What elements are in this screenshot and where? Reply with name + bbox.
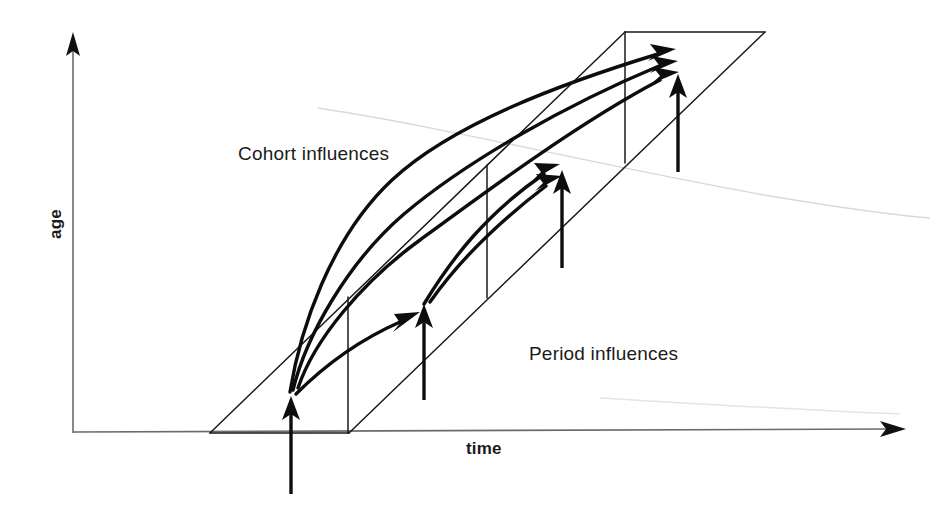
cohort-influences-label: Cohort influences [238,143,389,165]
ghost-artifacts [318,108,930,414]
axis-group [66,32,906,437]
y-axis-label: age [46,196,66,252]
x-axis-line [73,429,888,432]
cohort-curve-upper [290,54,658,392]
plane-right-edge [349,32,765,433]
period-influences-label: Period influences [529,343,678,365]
cohort-curve-lower-arrowhead [651,67,679,84]
x-axis-label: time [466,439,502,459]
cohort-curve-lower [298,80,660,388]
diagram-canvas: Cohort influences Period influences time… [0,0,943,522]
